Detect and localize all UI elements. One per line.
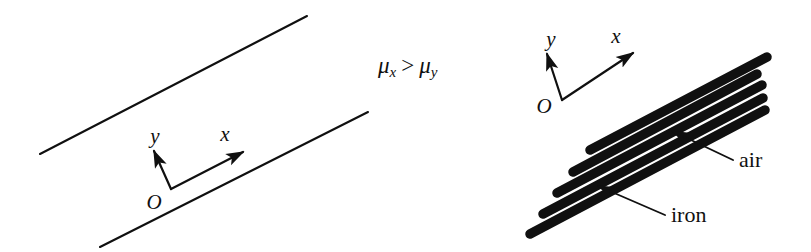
left-origin-label: O bbox=[146, 190, 161, 214]
lamination-bar bbox=[557, 85, 762, 193]
iron-label: iron bbox=[671, 202, 706, 227]
mu-x-symbol: μ bbox=[378, 53, 390, 78]
mu-y-subscript: y bbox=[431, 64, 438, 80]
permeability-relation-label: μx>μy bbox=[378, 54, 437, 80]
iron-callout-group: iron bbox=[598, 186, 706, 227]
right-axes-group: y x O bbox=[536, 24, 633, 118]
left-slab-group bbox=[40, 16, 368, 247]
left-y-axis-label: y bbox=[148, 124, 160, 148]
figure-root: y x O y x O air iron bbox=[0, 0, 811, 252]
left-x-axis-label: x bbox=[219, 122, 230, 146]
left-y-axis-arrow bbox=[154, 151, 171, 189]
left-x-axis-arrow bbox=[171, 152, 243, 189]
right-x-axis-arrow bbox=[562, 53, 633, 100]
mu-y-symbol: μ bbox=[419, 53, 431, 78]
air-label: air bbox=[739, 147, 763, 172]
diagram-canvas: y x O y x O air iron bbox=[0, 0, 811, 252]
slab-upper-boundary-line bbox=[40, 16, 307, 154]
iron-leader-line bbox=[598, 186, 665, 215]
right-origin-label: O bbox=[536, 94, 551, 118]
slab-lower-boundary-line bbox=[100, 112, 368, 247]
right-x-axis-label: x bbox=[610, 24, 621, 48]
lamination-bar bbox=[590, 57, 767, 150]
right-y-axis-label: y bbox=[544, 27, 556, 51]
greater-than-operator: > bbox=[396, 53, 419, 78]
